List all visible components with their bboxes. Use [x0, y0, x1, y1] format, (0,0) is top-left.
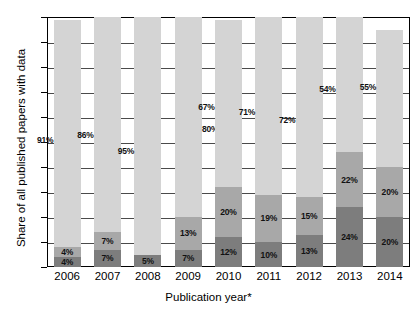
y-tick-mark [41, 192, 47, 193]
y-tick-mark [41, 67, 47, 68]
bar-segment-top-segment-2011 [255, 17, 282, 195]
bar-label-middle-segment-2012: 15% [301, 212, 317, 221]
x-axis-title: Publication year* [0, 291, 417, 303]
bar-label-middle-segment-2010: 20% [220, 208, 236, 217]
bar-2013: 24%22%54% [336, 17, 363, 267]
bar-label-top-segment-2010: 67% [198, 103, 214, 112]
bar-label-top-segment-2014: 55% [360, 83, 376, 92]
stacked-bar-chart: Share of all published papers with data … [0, 0, 417, 312]
bar-segment-top-segment-2009 [175, 17, 202, 217]
bar-2012: 13%15%72% [296, 17, 323, 267]
bar-label-bottom-segment-2010: 12% [220, 248, 236, 257]
bar-segment-top-segment-2014 [376, 30, 403, 168]
y-tick-mark [41, 242, 47, 243]
bar-label-top-segment-2012: 72% [279, 116, 295, 125]
bar-label-top-segment-2006: 91% [37, 136, 53, 145]
bar-label-middle-segment-2011: 19% [261, 214, 277, 223]
bar-label-middle-segment-2006: 4% [61, 248, 73, 257]
bar-2008: 5%95% [134, 17, 161, 267]
y-tick-mark [41, 217, 47, 218]
bar-label-middle-segment-2014: 20% [382, 188, 398, 197]
bar-label-bottom-segment-2008: 5% [142, 257, 154, 266]
bar-label-bottom-segment-2009: 7% [182, 254, 194, 263]
bar-2007: 7%7%86% [94, 17, 121, 267]
bar-label-top-segment-2007: 86% [77, 131, 93, 140]
y-tick-mark [41, 267, 47, 268]
bar-2011: 10%19%71% [255, 17, 282, 267]
bar-2006: 4%4%91% [54, 17, 81, 267]
y-tick-mark [41, 17, 47, 18]
bar-2010: 12%20%67% [215, 17, 242, 267]
bar-label-top-segment-2011: 71% [239, 108, 255, 117]
bar-segment-top-segment-2010 [215, 20, 242, 188]
bar-label-middle-segment-2007: 7% [102, 237, 114, 246]
bar-segment-top-segment-2012 [296, 17, 323, 197]
y-tick-mark [41, 92, 47, 93]
x-tick-label-2014: 2014 [360, 270, 417, 282]
bar-2014: 20%20%55% [376, 17, 403, 267]
y-tick-mark [41, 42, 47, 43]
bar-segment-top-segment-2008 [134, 17, 161, 255]
y-tick-mark [41, 167, 47, 168]
bar-segment-top-segment-2007 [94, 17, 121, 232]
bar-2009: 7%13%80% [175, 17, 202, 267]
bar-label-bottom-segment-2007: 7% [102, 254, 114, 263]
bar-label-bottom-segment-2014: 20% [382, 238, 398, 247]
bar-label-top-segment-2013: 54% [319, 85, 335, 94]
bar-label-bottom-segment-2013: 24% [341, 233, 357, 242]
bar-label-bottom-segment-2011: 10% [261, 250, 277, 259]
bar-label-middle-segment-2013: 22% [341, 175, 357, 184]
y-axis-title: Share of all published papers with data [15, 23, 27, 273]
bar-label-bottom-segment-2006: 4% [61, 258, 73, 267]
bar-label-bottom-segment-2012: 13% [301, 247, 317, 256]
y-tick-mark [41, 117, 47, 118]
bar-label-top-segment-2008: 95% [118, 147, 134, 156]
bar-label-middle-segment-2009: 13% [180, 229, 196, 238]
